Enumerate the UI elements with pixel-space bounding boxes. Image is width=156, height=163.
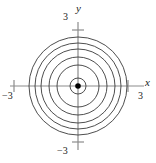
figure-concentric-circles: y x 3 −3 −3 3 [0,0,156,163]
graph-canvas [0,0,156,163]
x-axis-tick-label-min: −3 [2,91,13,101]
x-axis-tick-label-max: 3 [138,91,143,101]
y-axis-tick-label-max: 3 [63,12,68,22]
y-axis-tick-label-min: −3 [57,146,68,156]
y-axis-label: y [76,3,81,14]
origin-point [75,83,81,89]
x-axis-label: x [145,77,150,88]
